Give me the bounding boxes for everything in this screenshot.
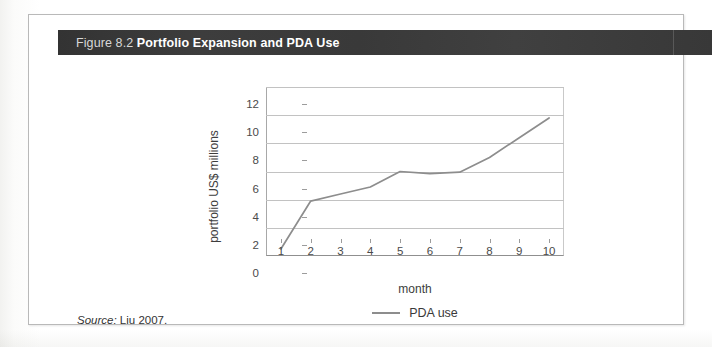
- x-tick-mark: [460, 239, 461, 243]
- x-tick-label: 4: [367, 245, 373, 257]
- x-tick-mark: [311, 239, 312, 243]
- figure-number: Figure 8.2: [76, 36, 133, 50]
- x-tick-label: 3: [337, 245, 343, 257]
- x-tick-mark: [519, 239, 520, 243]
- x-tick-mark: [370, 239, 371, 243]
- figure-caption: Figure 8.2 Portfolio Expansion and PDA U…: [58, 36, 340, 50]
- x-tick-label: 2: [307, 245, 313, 257]
- y-tick-label: 6: [253, 183, 259, 195]
- y-tick-mark: [302, 273, 307, 274]
- series-pda-use: [266, 87, 564, 256]
- y-tick-label: 10: [246, 126, 259, 138]
- x-tick-label: 10: [543, 245, 556, 257]
- x-tick-mark: [430, 239, 431, 243]
- y-tick-label: 2: [253, 239, 259, 251]
- figure-title: Portfolio Expansion and PDA Use: [137, 36, 340, 50]
- x-tick-label: 8: [486, 245, 492, 257]
- x-tick-mark: [549, 239, 550, 243]
- x-tick-mark: [281, 239, 282, 243]
- x-axis-title: month: [266, 282, 564, 296]
- figure-container: Figure 8.2 Portfolio Expansion and PDA U…: [28, 14, 684, 325]
- y-axis-ticks: 024681012: [219, 87, 259, 256]
- y-tick-label: 0: [253, 267, 259, 279]
- figure-source: Source: Liu 2007.: [77, 314, 167, 326]
- chart-legend: PDA use: [266, 306, 564, 320]
- x-tick-label: 6: [427, 245, 433, 257]
- x-tick-label: 1: [278, 245, 284, 257]
- x-tick-label: 5: [397, 245, 403, 257]
- x-tick-mark: [400, 239, 401, 243]
- x-tick-mark: [341, 239, 342, 243]
- chart: portfolio US$ millions 024681012 1234567…: [179, 70, 599, 320]
- y-tick-label: 12: [246, 98, 259, 110]
- figure-caption-bar: Figure 8.2 Portfolio Expansion and PDA U…: [58, 30, 712, 55]
- legend-line-swatch-icon: [372, 312, 400, 314]
- source-keyword: Source:: [77, 314, 117, 326]
- y-tick-label: 8: [253, 154, 259, 166]
- plot-area: [266, 87, 564, 256]
- x-tick-mark: [490, 239, 491, 243]
- x-tick-label: 7: [456, 245, 462, 257]
- y-tick-label: 4: [253, 211, 259, 223]
- x-tick-label: 9: [516, 245, 522, 257]
- source-citation: Liu 2007.: [120, 314, 167, 326]
- legend-label-pda-use: PDA use: [409, 306, 458, 320]
